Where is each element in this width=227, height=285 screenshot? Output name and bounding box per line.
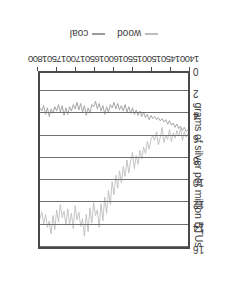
legend-item-wood: wood <box>117 29 158 40</box>
legend-item-coal: coal <box>70 29 105 40</box>
x-tick-label: 1600 <box>105 54 124 65</box>
gridline <box>40 113 188 114</box>
x-tick-mark <box>132 67 133 71</box>
x-tick-label: 1550 <box>124 54 143 65</box>
y-tick-label: 0 <box>193 66 199 77</box>
x-tick-label: 1650 <box>86 54 105 65</box>
y-tick-label: 10 <box>193 177 204 188</box>
x-tick-mark <box>189 67 190 71</box>
x-tick-mark <box>94 67 95 71</box>
y-tick-label: 12 <box>193 199 204 210</box>
x-tick-mark <box>113 67 114 71</box>
chart-legend: wood coal <box>38 25 190 43</box>
x-tick-label: 1450 <box>162 54 181 65</box>
y-tick-label: 14 <box>193 221 204 232</box>
chart-figure-rotated: grams of silver per million BTUs 1614121… <box>0 0 227 285</box>
x-tick-label: 1800 <box>29 54 48 65</box>
legend-label-coal: coal <box>70 29 88 40</box>
x-tick-mark <box>170 67 171 71</box>
x-tick-mark <box>151 67 152 71</box>
x-tick-label: 1400 <box>181 54 200 65</box>
x-tick-mark <box>75 67 76 71</box>
line-chart-figure: grams of silver per million BTUs 1614121… <box>0 0 227 285</box>
plot-series-svg <box>40 73 188 247</box>
y-axis-tick-labels: 1614121086420 <box>193 71 211 249</box>
series-line-coal <box>40 101 188 131</box>
x-tick-mark <box>56 67 57 71</box>
x-axis-tick-labels: 140014501500155016001650170017501800 <box>21 49 207 65</box>
y-tick-label: 2 <box>193 88 199 99</box>
gridline <box>40 179 188 180</box>
gridline <box>40 90 188 91</box>
gridline <box>40 246 188 247</box>
y-tick-label: 8 <box>193 155 199 166</box>
x-tick-mark <box>37 67 38 71</box>
legend-line-wood-icon <box>145 33 158 35</box>
y-tick-label: 16 <box>193 244 204 255</box>
legend-line-coal-icon <box>92 33 105 35</box>
gridline <box>40 202 188 203</box>
x-tick-label: 1700 <box>67 54 86 65</box>
gridline <box>40 135 188 136</box>
y-tick-label: 6 <box>193 132 199 143</box>
x-tick-label: 1500 <box>143 54 162 65</box>
series-line-wood <box>40 127 188 236</box>
gridline <box>40 224 188 225</box>
x-tick-label: 1750 <box>48 54 67 65</box>
y-tick-label: 4 <box>193 110 199 121</box>
gridline <box>40 157 188 158</box>
plot-area <box>38 71 190 249</box>
legend-label-wood: wood <box>117 29 141 40</box>
